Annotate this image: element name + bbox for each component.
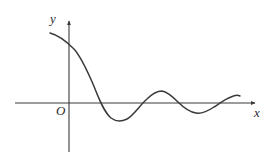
x-axis-label: x	[254, 106, 260, 119]
origin-label: O	[56, 104, 65, 117]
y-axis-label: y	[50, 12, 56, 25]
coordinate-plot	[0, 0, 270, 158]
damped-oscillation-curve	[50, 33, 240, 121]
math-figure: y x O	[0, 0, 270, 158]
